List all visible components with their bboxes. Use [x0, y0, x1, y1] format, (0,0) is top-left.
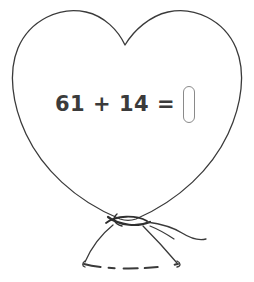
ribbon-hem-dashed [84, 264, 178, 269]
addition-problem: 61 + 14 = [55, 84, 195, 124]
heart-balloon-illustration [0, 0, 254, 282]
ribbon-tail [147, 222, 206, 240]
ribbon-right-edge [143, 226, 177, 263]
ribbon-left-edge [85, 225, 113, 262]
problem-expression: 61 + 14 = [55, 94, 175, 115]
math-worksheet-page: 61 + 14 = [0, 0, 254, 282]
answer-input-box[interactable] [183, 86, 195, 123]
